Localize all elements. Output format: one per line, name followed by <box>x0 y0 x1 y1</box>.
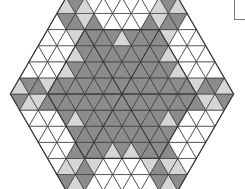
hexagonal-tiling-diagram <box>0 0 245 189</box>
